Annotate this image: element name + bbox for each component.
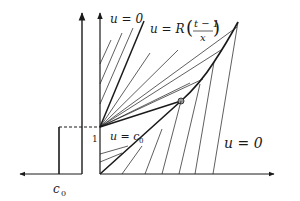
svg-text:0: 0 bbox=[61, 189, 66, 198]
svg-text:u = c: u = c bbox=[110, 130, 139, 143]
svg-text:0: 0 bbox=[139, 137, 143, 145]
svg-text:u = R: u = R bbox=[150, 22, 184, 36]
label-constant-state: u = c 0 bbox=[110, 130, 143, 145]
label-top-u0: u = 0 bbox=[110, 12, 143, 26]
svg-text:): ) bbox=[213, 17, 220, 38]
svg-text:(: ( bbox=[186, 17, 193, 38]
tick-one-label: 1 bbox=[92, 134, 98, 144]
label-right-u0: u = 0 bbox=[224, 135, 263, 151]
shock-curve bbox=[100, 22, 238, 174]
characteristics-diagram: u = 0 u = R ( t − 1 x ) 1 u = c 0 u = 0 … bbox=[0, 0, 300, 201]
upper-characteristics bbox=[100, 28, 133, 104]
fan-right-boundary bbox=[100, 101, 181, 127]
initial-profile-panel bbox=[20, 13, 100, 174]
svg-text:c: c bbox=[53, 182, 60, 196]
constant-state-characteristics bbox=[100, 146, 128, 162]
label-fan-formula: u = R ( t − 1 x ) bbox=[150, 17, 220, 43]
svg-text:x: x bbox=[200, 32, 206, 43]
label-c0: c 0 bbox=[53, 182, 66, 198]
